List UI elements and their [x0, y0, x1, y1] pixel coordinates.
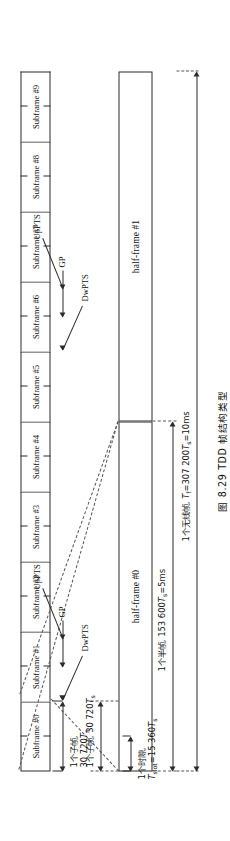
slot-divider-tick: [43, 455, 50, 456]
gp-label: GP: [56, 256, 66, 267]
gp-label: GP: [56, 606, 66, 617]
slot-divider-tick: [20, 595, 27, 596]
subframe-upper-name: 1个子帧: [84, 738, 94, 767]
dwpts-arrow-head: [62, 697, 63, 699]
subframe-label: Subframe #3: [30, 504, 40, 548]
dwpts-label: DwPTS: [79, 624, 89, 651]
half-frame-box: half-frame #1: [118, 71, 152, 421]
half-frame-dimension-label: 1个半帧, 153 600Ts=5ms: [156, 568, 168, 671]
subframe-label: Subframe #4: [30, 434, 40, 478]
figure-page: Subframe #0 Subframe #1 Subframe #2 Subf…: [0, 0, 230, 841]
radio-frame-dimension: [196, 72, 197, 770]
tdd-frame-structure-figure: Subframe #0 Subframe #1 Subframe #2 Subf…: [0, 0, 230, 841]
radio-frame-value: Tf=307 200Ts=10ms: [180, 411, 190, 499]
subframe-label: Subframe #8: [30, 154, 40, 198]
half-frame-label: half-frame #1: [130, 219, 140, 272]
radio-frame-name: 1个无线帧: [180, 504, 190, 541]
gp-arrow-line: [62, 270, 63, 316]
slot-divider-tick: [20, 735, 27, 736]
extension-dashed: [90, 770, 118, 771]
half-frame-value: 153 600Ts=5ms: [156, 568, 166, 636]
slot-divider-tick: [20, 315, 27, 316]
gp-arrow-line: [62, 620, 63, 666]
subframe-label: Subframe #9: [30, 84, 40, 128]
slot-divider-tick: [20, 455, 27, 456]
subframe-lower-name: 1个子帧: [68, 738, 78, 767]
slot-divider-tick: [20, 175, 27, 176]
slot-divider-tick: [43, 385, 50, 386]
dwpts-label: DwPTS: [79, 274, 89, 301]
subframe-upper-value: 30 720Ts: [84, 695, 94, 733]
slot-divider-tick: [20, 665, 27, 666]
slot-dimension: [130, 737, 131, 770]
subframe-strip: Subframe #0 Subframe #1 Subframe #2 Subf…: [20, 71, 50, 771]
slot-divider-tick: [20, 105, 27, 106]
figure-caption: 图 8.29 TDD 帧结构类型: [214, 390, 228, 511]
slot-name: 1个时隙: [136, 750, 146, 779]
slot-divider-tick: [20, 385, 27, 386]
subframe-dimension-upper-label: 1个子帧, 30 720Ts: [84, 695, 96, 767]
half-frame-name: 1个半帧: [156, 642, 166, 671]
subframe-dimension-lower: [62, 702, 63, 770]
uppts-label: UpPTS: [31, 564, 41, 589]
subframe-label: Subframe #6: [30, 294, 40, 338]
half-frame-dimension: [172, 422, 173, 770]
uppts-label: UpPTS: [31, 214, 41, 239]
slot-divider-tick: [43, 315, 50, 316]
slot-divider-tick: [20, 525, 27, 526]
slot-divider-tick: [43, 175, 50, 176]
subframe-dimension-upper: [100, 702, 101, 770]
slot-divider-tick: [43, 105, 50, 106]
radio-frame-dimension-label: 1个无线帧, Tf=307 200Ts=10ms: [180, 411, 192, 541]
slot-divider-tick: [20, 245, 27, 246]
subframe-label: Subframe #5: [30, 364, 40, 408]
slot-divider-tick: [43, 735, 50, 736]
half-frame-label: half-frame #0: [130, 569, 140, 622]
slot-divider-tick: [43, 525, 50, 526]
